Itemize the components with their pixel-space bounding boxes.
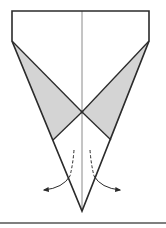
center-point [81, 111, 84, 114]
origami-diagram [0, 0, 166, 228]
diagram-svg [0, 0, 166, 228]
